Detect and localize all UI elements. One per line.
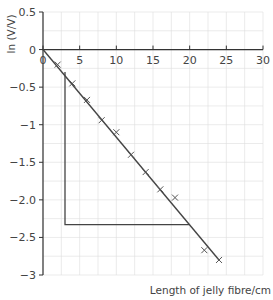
- x-tick-label: 5: [76, 54, 83, 67]
- x-tick-label: 0: [40, 54, 47, 67]
- data-point-marker: [99, 117, 105, 123]
- data-point-marker: [216, 257, 222, 263]
- x-tick-label: 20: [183, 54, 197, 67]
- data-point-marker: [128, 152, 134, 158]
- x-axis-label: Length of jelly fibre/cm: [150, 284, 271, 296]
- y-tick-label: 0.5: [19, 6, 37, 19]
- y-tick-label: −1: [20, 119, 36, 132]
- y-tick-label: −2.5: [9, 231, 36, 244]
- y-tick-label: −0.5: [9, 81, 36, 94]
- y-tick-label: −1.5: [9, 156, 36, 169]
- chart: 0510152025300.50−0.5−1−1.5−2.0−2.5−3 ln …: [0, 0, 273, 300]
- data-point-marker: [157, 186, 163, 192]
- x-tick-label: 25: [219, 54, 233, 67]
- y-tick-label: −3: [20, 269, 36, 282]
- y-axis-label: ln (V/V): [5, 14, 17, 53]
- y-tick-label: 0: [29, 44, 36, 57]
- data-point-marker: [143, 169, 149, 175]
- x-tick-label: 10: [109, 54, 123, 67]
- x-tick-label: 30: [256, 54, 270, 67]
- data-point-marker: [201, 247, 207, 253]
- grid: [43, 12, 263, 275]
- ticks: 0510152025300.50−0.5−1−1.5−2.0−2.5−3: [9, 6, 270, 282]
- y-tick-label: −2.0: [9, 194, 36, 207]
- x-tick-label: 15: [146, 54, 160, 67]
